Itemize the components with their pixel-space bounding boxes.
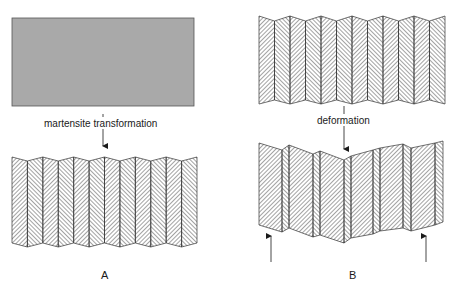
martensite-twinned-block-b bbox=[259, 16, 445, 104]
deformation-label: deformation bbox=[317, 115, 370, 126]
martensite-diagram: martensite transformation A deformation … bbox=[0, 0, 456, 292]
panel-a: martensite transformation A bbox=[12, 18, 197, 281]
parent-phase-block bbox=[12, 18, 194, 106]
panel-b: deformation B bbox=[259, 16, 445, 281]
panel-b-label: B bbox=[349, 269, 356, 281]
panel-a-label: A bbox=[101, 269, 109, 281]
transformation-label: martensite transformation bbox=[44, 118, 157, 129]
deformed-martensite-block bbox=[259, 141, 443, 243]
martensite-twinned-block-a bbox=[12, 157, 197, 247]
